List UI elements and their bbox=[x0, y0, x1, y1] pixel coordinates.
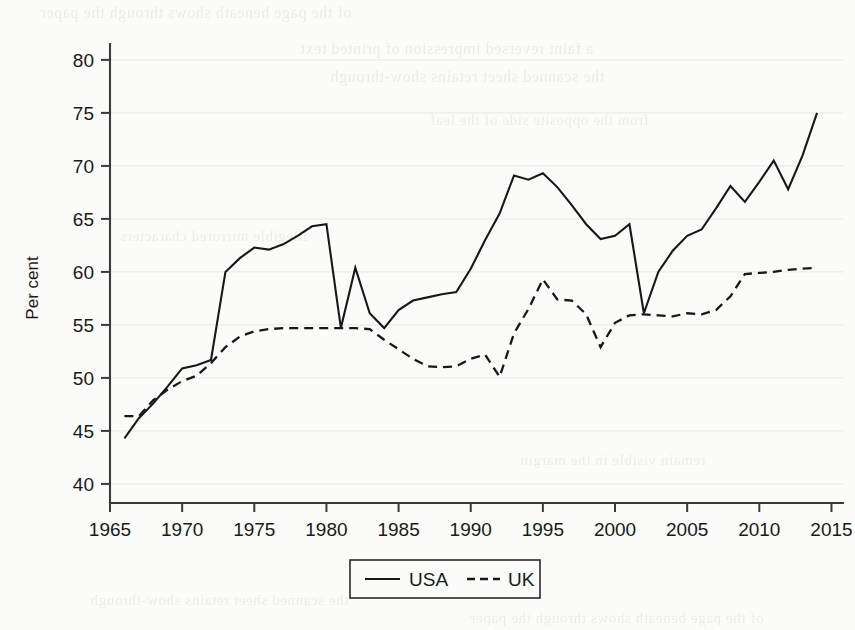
y-tick-label: 45 bbox=[73, 421, 94, 442]
y-tick-label: 40 bbox=[73, 474, 94, 495]
x-tick-label: 2005 bbox=[666, 519, 708, 540]
x-tick-label: 2010 bbox=[738, 519, 780, 540]
x-tick-label: 2015 bbox=[810, 519, 852, 540]
y-tick-label: 65 bbox=[73, 209, 94, 230]
series-line-uk bbox=[124, 268, 817, 416]
y-tick-label: 75 bbox=[73, 103, 94, 124]
chart-container: 404550556065707580 196519701975198019851… bbox=[0, 0, 855, 630]
y-tick-label: 80 bbox=[73, 50, 94, 71]
line-chart: 404550556065707580 196519701975198019851… bbox=[0, 0, 855, 630]
x-tick-label: 1975 bbox=[233, 519, 275, 540]
y-axis-tick-labels: 404550556065707580 bbox=[73, 50, 94, 495]
y-tick-label: 60 bbox=[73, 262, 94, 283]
legend-label-uk: UK bbox=[508, 569, 535, 590]
tick-marks-group bbox=[101, 60, 831, 512]
y-tick-label: 55 bbox=[73, 315, 94, 336]
y-tick-label: 70 bbox=[73, 156, 94, 177]
x-tick-label: 1985 bbox=[377, 519, 419, 540]
chart-legend: USA UK bbox=[350, 560, 540, 598]
x-tick-label: 2000 bbox=[594, 519, 636, 540]
x-tick-label: 1970 bbox=[161, 519, 203, 540]
x-tick-label: 1995 bbox=[522, 519, 564, 540]
x-tick-label: 1965 bbox=[89, 519, 131, 540]
x-tick-label: 1980 bbox=[305, 519, 347, 540]
legend-label-usa: USA bbox=[409, 569, 448, 590]
series-line-usa bbox=[124, 113, 817, 438]
y-axis-title: Per cent bbox=[23, 256, 42, 320]
x-axis-tick-labels: 1965197019751980198519901995200020052010… bbox=[89, 519, 853, 540]
x-tick-label: 1990 bbox=[450, 519, 492, 540]
gridlines-group bbox=[110, 60, 843, 484]
y-tick-label: 50 bbox=[73, 368, 94, 389]
